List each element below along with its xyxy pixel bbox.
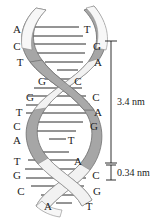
base-label: C bbox=[11, 41, 23, 52]
base-label: G bbox=[91, 41, 103, 52]
base-label: C bbox=[90, 170, 102, 181]
base-label: T bbox=[83, 201, 95, 212]
dna-double-helix-figure: A C T G G T C A T G C A T G A C C A G T … bbox=[0, 0, 158, 222]
base-label: T bbox=[81, 24, 93, 35]
base-label: G bbox=[36, 76, 48, 87]
base-label: T bbox=[11, 156, 23, 167]
base-label: A bbox=[72, 156, 84, 167]
base-label: A bbox=[11, 24, 23, 35]
base-label: T bbox=[65, 135, 77, 146]
base-label: G bbox=[11, 170, 23, 181]
base-label: C bbox=[72, 76, 84, 87]
base-label: A bbox=[92, 57, 104, 68]
base-label: T bbox=[13, 107, 25, 118]
base-label: A bbox=[92, 107, 104, 118]
base-label: G bbox=[88, 121, 100, 132]
base-label: A bbox=[11, 135, 23, 146]
base-label: C bbox=[90, 92, 102, 103]
base-label: T bbox=[14, 57, 26, 68]
base-label: G bbox=[91, 186, 103, 197]
base-label: A bbox=[42, 201, 54, 212]
measurement-brackets bbox=[105, 41, 117, 180]
base-label: C bbox=[11, 121, 23, 132]
base-label: G bbox=[24, 92, 36, 103]
base-label: C bbox=[15, 186, 27, 197]
base-rise-label: 0.34 nm bbox=[117, 167, 150, 178]
helix-turn-label: 3.4 nm bbox=[117, 96, 145, 107]
